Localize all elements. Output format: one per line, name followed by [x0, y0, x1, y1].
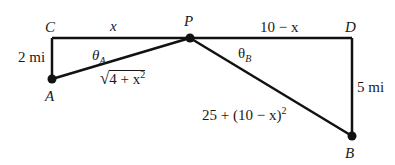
point-a-dot — [48, 75, 57, 84]
segment-db-label: 5 mi — [357, 80, 384, 95]
radicand-base: 4 + x — [109, 71, 140, 87]
segment-cp-label: x — [110, 19, 117, 34]
segment-ca-label: 2 mi — [18, 50, 45, 65]
radicand-exponent: 2 — [140, 69, 145, 80]
sqrt-expression: √4 + x2 — [100, 70, 145, 87]
angle-theta-a-label: θA — [92, 48, 105, 63]
segment-pd-label: 10 − x — [260, 20, 298, 35]
diagram: C P D A B x 10 − x 2 mi 5 mi √4 + x2 25 … — [0, 0, 395, 165]
point-b-label: B — [345, 146, 354, 161]
point-p-label: P — [184, 14, 193, 29]
point-a-label: A — [45, 89, 54, 104]
point-p-dot — [186, 34, 195, 43]
segment-pb-label: 25 + (10 − x)2 — [202, 108, 286, 123]
sqrt-icon: √ — [100, 69, 109, 88]
segment-pb-exponent: 2 — [281, 105, 286, 116]
theta-b-subscript: B — [245, 53, 251, 64]
point-d-label: D — [345, 20, 356, 35]
point-b-dot — [348, 132, 357, 141]
theta-a-subscript: A — [99, 55, 105, 66]
point-c-label: C — [45, 20, 55, 35]
segment-pb-base: 25 + (10 − x) — [202, 107, 281, 123]
segment-ap-label: √4 + x2 — [100, 70, 145, 87]
angle-theta-b-label: θB — [238, 46, 251, 61]
diagram-geometry — [0, 0, 395, 165]
radicand: 4 + x2 — [109, 70, 145, 87]
